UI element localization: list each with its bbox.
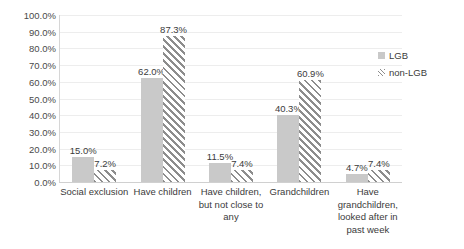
x-axis-category-label-line: Social exclusion [56,186,132,199]
grouped-bar-chart: 100.0%90.0%80.0%70.0%60.0%50.0%40.0%30.0… [0,0,464,249]
bar-value-label: 15.0% [63,145,103,156]
legend-label-non-lgb: non-LGB [389,67,427,78]
bar-group: 15.0%7.2% [60,15,128,182]
plot-area: 15.0%7.2%62.0%87.3%11.5%7.4%40.3%60.9%4.… [60,15,402,182]
bar-non-lgb [299,80,321,182]
bar-group: 40.3%60.9% [265,15,333,182]
x-axis-category-label: Grandchildren [261,186,337,199]
y-axis-tick-label: 20.0% [0,143,56,154]
y-axis-tick-label: 40.0% [0,110,56,121]
y-axis-tick-label: 0.0% [0,177,56,188]
legend-label-lgb: LGB [389,50,408,61]
x-axis-category-label-line: looked after in [330,211,406,224]
x-axis-category-label-line: Have [330,186,406,199]
bar-group: 11.5%7.4% [197,15,265,182]
x-axis-category-label-line: past week [330,224,406,237]
bar-value-label: 7.4% [222,158,262,169]
bar-non-lgb [163,36,185,182]
bar-value-label: 7.2% [85,158,125,169]
bar-lgb [277,115,299,182]
x-axis-category-label-line: any [193,211,269,224]
bar-non-lgb [368,170,390,182]
y-axis-tick-label: 100.0% [0,10,56,21]
bar-lgb [346,174,368,182]
legend-item-lgb: LGB [378,47,462,64]
bar-value-label: 87.3% [154,24,194,35]
x-axis-category-label-line: but not close to [193,199,269,212]
legend-swatch-icon-lgb [378,52,385,59]
bar-group: 62.0%87.3% [128,15,196,182]
x-axis-category-label-line: Have children [124,186,200,199]
x-axis-category-label: Havegrandchildren,looked after inpast we… [330,186,406,236]
y-axis: 100.0%90.0%80.0%70.0%60.0%50.0%40.0%30.0… [0,9,56,183]
y-axis-tick-label: 60.0% [0,76,56,87]
bar-value-label: 60.9% [290,68,330,79]
x-axis-line [59,182,402,183]
legend-swatch-icon-non-lgb [378,69,385,76]
bar-group: 4.7%7.4% [334,15,402,182]
bar-non-lgb [231,170,253,182]
y-axis-tick-label: 10.0% [0,160,56,171]
x-axis-category-label-line: Grandchildren [261,186,337,199]
chart-legend: LGB non-LGB [378,47,462,81]
x-axis-category-label: Social exclusion [56,186,132,199]
y-axis-tick-label: 50.0% [0,93,56,104]
x-axis-category-label: Have children [124,186,200,199]
y-axis-tick-label: 30.0% [0,126,56,137]
legend-item-non-lgb: non-LGB [378,64,462,81]
y-axis-tick-label: 80.0% [0,43,56,54]
y-axis-tick-label: 70.0% [0,60,56,71]
x-axis-category-labels: Social exclusionHave childrenHave childr… [60,186,402,248]
x-axis-category-label: Have children,but not close toany [193,186,269,224]
x-axis-category-label-line: Have children, [193,186,269,199]
y-axis-tick-label: 90.0% [0,26,56,37]
bar-non-lgb [94,170,116,182]
bar-lgb [141,78,163,182]
x-axis-category-label-line: grandchildren, [330,199,406,212]
bar-value-label: 7.4% [359,158,399,169]
